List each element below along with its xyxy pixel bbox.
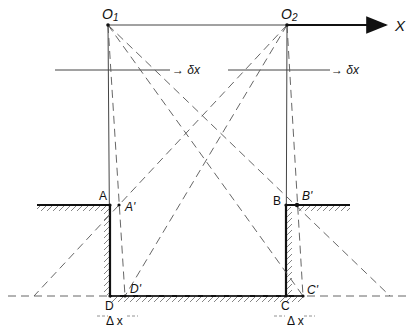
label-o2-sub: 2: [291, 12, 298, 23]
ground-right-hatch: [297, 206, 350, 211]
label-b-prime: B': [302, 189, 313, 203]
label-delta-x-left: Δ x: [106, 314, 123, 328]
stereo-parallax-diagram: O 1 O 2 X → δx → δx A A' B B' D D' C C' …: [0, 0, 420, 334]
label-o1: O: [102, 6, 113, 22]
wall-bc-hatch: [287, 207, 292, 295]
label-d: D: [105, 299, 114, 313]
label-dx-right: → δx: [331, 63, 360, 77]
point-b: [284, 203, 287, 206]
floor-hatch: [110, 297, 303, 302]
label-d-prime: D': [130, 282, 142, 296]
point-a-prime: [117, 203, 120, 206]
point-c-prime: [301, 294, 304, 297]
label-x-axis: X: [394, 17, 406, 34]
point-d: [108, 294, 111, 297]
ground-left-hatch: [37, 206, 109, 211]
label-delta-x-right: Δ x: [287, 314, 304, 328]
point-b-prime: [295, 203, 299, 207]
label-o1-sub: 1: [113, 12, 119, 23]
point-c: [284, 294, 287, 297]
label-c-prime: C': [307, 283, 319, 297]
point-a: [108, 203, 111, 206]
ray-o2-d-prime: [125, 25, 287, 296]
point-o1: [106, 23, 110, 27]
label-o2: O: [281, 6, 292, 22]
point-d-prime: [123, 294, 126, 297]
diagram-canvas: O 1 O 2 X → δx → δx A A' B B' D D' C C' …: [0, 0, 420, 334]
label-a-prime: A': [124, 200, 136, 214]
label-c: C: [281, 299, 290, 313]
label-b: B: [273, 194, 281, 208]
label-a: A: [99, 189, 107, 203]
point-o2: [285, 23, 289, 27]
label-dx-left: → δx: [172, 63, 201, 77]
